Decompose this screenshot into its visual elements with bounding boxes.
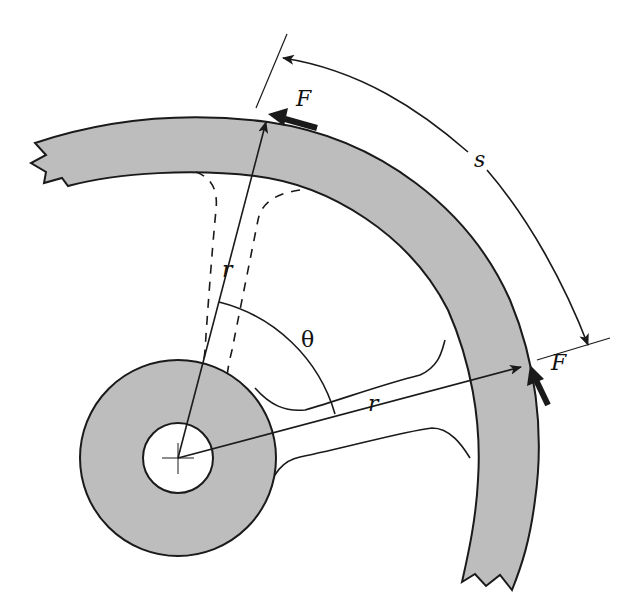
force-label-right: F [550,350,567,375]
extension-line-top [256,34,287,108]
diagram-svg: F F s θ r r [0,0,636,610]
spoke-deflected [176,172,300,393]
force-label-top: F [295,86,312,111]
radius-label-top: r [222,257,234,282]
spoke [255,340,470,506]
arc-length-label: s [474,147,485,172]
extension-line-right [537,338,610,360]
radius-label-right: r [368,391,380,416]
angle-label: θ [301,327,314,352]
flywheel-diagram: F F s θ r r [0,0,636,610]
